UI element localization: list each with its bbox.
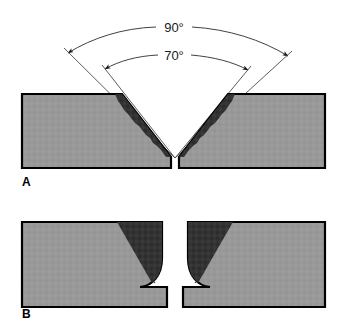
arc-90-right-segment [192, 27, 288, 56]
angle-label-70: 70° [164, 48, 184, 63]
weld-groove-figure: 90° 70° A [0, 0, 346, 320]
panel-b: B [22, 222, 325, 320]
arc-90-left-segment [68, 27, 156, 53]
arc-70-left-segment [105, 55, 158, 69]
panel-letter-b: B [22, 307, 31, 320]
panel-a: 90° 70° A [22, 20, 325, 189]
angle-label-90: 90° [164, 20, 184, 35]
figure-canvas: 90° 70° A [0, 0, 346, 320]
arc-70-right-segment [191, 55, 248, 70]
panel-letter-a: A [22, 175, 31, 189]
